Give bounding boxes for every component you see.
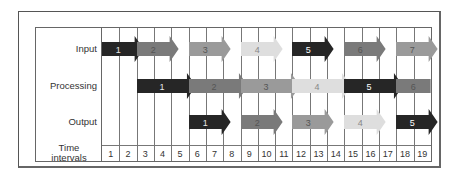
arrow-shape: 6	[344, 36, 386, 62]
arrow-shape: 2	[137, 36, 179, 62]
processing-task-1-arrow: 1	[137, 73, 196, 99]
row-label-processing: Processing	[50, 80, 97, 91]
input-task-7-arrow: 7	[396, 36, 438, 62]
arrow-shape: 1	[189, 109, 231, 135]
row-label-output: Output	[68, 116, 97, 127]
time-interval-5: 5	[171, 149, 188, 159]
time-interval-6: 6	[189, 149, 206, 159]
time-interval-1: 1	[102, 149, 119, 159]
arrow-shape: 3	[292, 109, 334, 135]
processing-task-5-arrow: 5	[344, 73, 403, 99]
time-interval-4: 4	[154, 149, 171, 159]
arrow-shape: 4	[292, 73, 351, 99]
time-interval-12: 12	[292, 149, 309, 159]
input-task-2-arrow: 2	[137, 36, 179, 62]
input-task-4-arrow: 4	[241, 36, 283, 62]
svg-text:6: 6	[411, 82, 416, 92]
time-interval-3: 3	[137, 149, 154, 159]
output-task-1-arrow: 1	[189, 109, 231, 135]
time-interval-8: 8	[223, 149, 240, 159]
output-task-5-arrow: 5	[396, 109, 438, 135]
time-interval-17: 17	[379, 149, 396, 159]
row-label-input: Input	[76, 43, 97, 54]
svg-text:6: 6	[358, 45, 363, 55]
arrow-shape: 5	[292, 36, 334, 62]
time-interval-2: 2	[119, 149, 136, 159]
svg-text:1: 1	[159, 82, 164, 92]
svg-text:2: 2	[211, 82, 216, 92]
time-interval-13: 13	[310, 149, 327, 159]
processing-task-2-arrow: 2	[189, 73, 248, 99]
arrow-shape: 2	[189, 73, 248, 99]
time-interval-9: 9	[241, 149, 258, 159]
arrow-shape: 5	[396, 109, 438, 135]
pipeline-timing-table: Input Processing Output Time intervals 1…	[35, 27, 432, 162]
time-interval-14: 14	[327, 149, 344, 159]
time-interval-10: 10	[258, 149, 275, 159]
processing-task-3-arrow: 3	[241, 73, 300, 99]
time-row-divider	[102, 145, 431, 146]
svg-text:7: 7	[410, 45, 415, 55]
time-intervals-label: Time intervals	[39, 143, 99, 163]
arrow-shape: 5	[344, 73, 403, 99]
svg-text:4: 4	[254, 45, 259, 55]
svg-text:1: 1	[202, 118, 207, 128]
output-task-2-arrow: 2	[241, 109, 283, 135]
input-task-6-arrow: 6	[344, 36, 386, 62]
arrow-shape: 6	[396, 73, 431, 99]
svg-text:1: 1	[116, 45, 121, 55]
svg-text:3: 3	[263, 82, 268, 92]
time-interval-16: 16	[362, 149, 379, 159]
arrow-shape: 7	[396, 36, 438, 62]
svg-text:3: 3	[306, 118, 311, 128]
time-interval-15: 15	[344, 149, 361, 159]
time-interval-11: 11	[275, 149, 292, 159]
svg-text:5: 5	[306, 45, 311, 55]
arrow-shape: 1	[137, 73, 196, 99]
svg-text:4: 4	[358, 118, 363, 128]
row-label-column: Input Processing Output Time intervals	[36, 28, 102, 161]
arrow-shape: 4	[344, 109, 386, 135]
svg-text:2: 2	[254, 118, 259, 128]
input-task-5-arrow: 5	[292, 36, 334, 62]
time-interval-19: 19	[414, 149, 431, 159]
time-interval-18: 18	[396, 149, 413, 159]
processing-task-4-arrow: 4	[292, 73, 351, 99]
svg-text:5: 5	[367, 82, 372, 92]
processing-task-6-arrow: 6	[396, 73, 431, 99]
input-task-3-arrow: 3	[189, 36, 231, 62]
arrow-shape: 3	[189, 36, 231, 62]
svg-text:5: 5	[410, 118, 415, 128]
output-task-3-arrow: 3	[292, 109, 334, 135]
svg-text:2: 2	[150, 45, 155, 55]
arrow-shape: 3	[241, 73, 300, 99]
time-interval-7: 7	[206, 149, 223, 159]
output-task-4-arrow: 4	[344, 109, 386, 135]
svg-text:4: 4	[315, 82, 320, 92]
arrow-shape: 2	[241, 109, 283, 135]
svg-text:3: 3	[202, 45, 207, 55]
arrow-shape: 4	[241, 36, 283, 62]
